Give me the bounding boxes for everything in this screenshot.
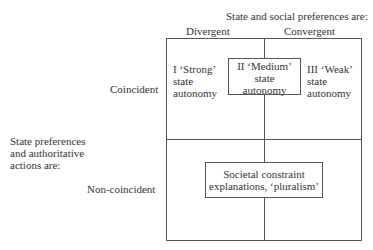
cell-text: I ‘Strong’ [173, 63, 217, 75]
cell-societal-constraint: Societal constraint explanations, ‘plura… [205, 162, 323, 198]
column-header-title: State and social preferences are: [226, 10, 368, 22]
row-header-line: State preferences [10, 135, 85, 147]
cell-text: state [229, 72, 300, 84]
horizontal-divider [166, 139, 362, 140]
row-header-line: actions are: [10, 159, 85, 171]
cell-text: autonomy [173, 87, 217, 99]
column-label-divergent: Divergent [186, 25, 230, 37]
row-header-line: and authoritative [10, 147, 85, 159]
cell-text: state [173, 75, 217, 87]
cell-medium-autonomy: II ‘Medium’ state autonomy [228, 58, 301, 95]
cell-weak-autonomy: III ‘Weak’ state autonomy [307, 63, 353, 99]
cell-strong-autonomy: I ‘Strong’ state autonomy [173, 63, 217, 99]
cell-text: II ‘Medium’ [229, 60, 300, 72]
cell-text: explanations, ‘pluralism’ [206, 180, 322, 192]
cell-text: autonomy [229, 84, 300, 96]
cell-text: III ‘Weak’ [307, 63, 353, 75]
cell-text: Societal constraint [206, 168, 322, 180]
cell-text: state [307, 75, 353, 87]
row-label-coincident: Coincident [110, 83, 158, 95]
column-label-convergent: Convergent [284, 25, 335, 37]
row-label-non-coincident: Non-coincident [87, 183, 155, 195]
row-header-title: State preferences and authoritative acti… [10, 135, 85, 171]
cell-text: autonomy [307, 87, 353, 99]
